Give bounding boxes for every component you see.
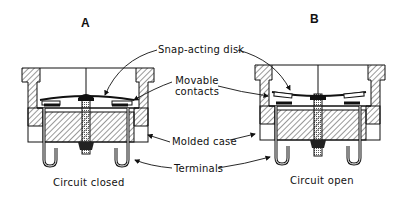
label-terminals: Terminals: [174, 163, 223, 174]
panel-b-letter: B: [310, 12, 319, 26]
caption-circuit-closed: Circuit closed: [53, 177, 125, 188]
thermostat-switch-diagram: A B Snap-acting disk Movable contacts Mo…: [0, 0, 398, 197]
label-movable-contacts: Movable contacts: [174, 75, 220, 97]
caption-circuit-open: Circuit open: [290, 175, 354, 186]
label-snap-acting-disk: Snap-acting disk: [158, 44, 244, 55]
panel-a-letter: A: [81, 16, 90, 30]
label-movable-contacts-line1: Movable: [174, 75, 220, 86]
label-molded-case: Molded case: [172, 136, 237, 147]
panel-a-drawing: [22, 68, 154, 166]
label-movable-contacts-line2: contacts: [174, 86, 220, 97]
panel-b-drawing: [255, 65, 385, 164]
